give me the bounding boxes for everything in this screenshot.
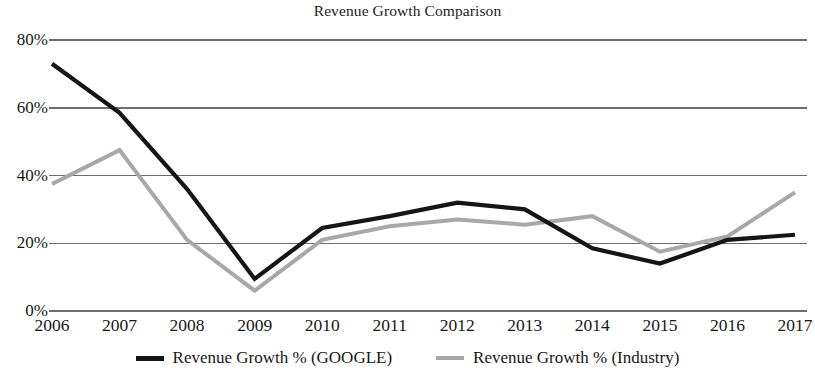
x-axis-tick-label: 2008 bbox=[154, 313, 220, 337]
x-axis-tick-label: 2007 bbox=[87, 313, 153, 337]
x-axis-tick-labels: 2006200720082009201020112012201320142015… bbox=[0, 313, 815, 339]
x-axis-tick-label: 2013 bbox=[492, 313, 558, 337]
y-axis-tick-label: 60% bbox=[2, 99, 48, 116]
legend-label: Revenue Growth % (Industry) bbox=[473, 348, 679, 368]
legend-line-icon bbox=[436, 356, 464, 360]
x-axis-tick-label: 2016 bbox=[694, 313, 760, 337]
y-axis-tick-label: 80% bbox=[2, 31, 48, 48]
series-line bbox=[52, 150, 795, 291]
plot-area bbox=[0, 0, 815, 340]
y-axis-tick-labels: 0%20%40%60%80% bbox=[0, 0, 48, 340]
y-axis-tick-label: 20% bbox=[2, 234, 48, 251]
x-axis-tick-label: 2015 bbox=[627, 313, 693, 337]
x-axis-tick-label: 2017 bbox=[762, 313, 815, 337]
x-axis-tick-label: 2012 bbox=[424, 313, 490, 337]
gridlines bbox=[49, 40, 807, 311]
x-axis-tick-label: 2011 bbox=[357, 313, 423, 337]
legend-entry: Revenue Growth % (GOOGLE) bbox=[136, 348, 393, 368]
plot-svg bbox=[0, 0, 815, 340]
legend-label: Revenue Growth % (GOOGLE) bbox=[173, 348, 393, 368]
legend-entry: Revenue Growth % (Industry) bbox=[436, 348, 679, 368]
y-axis-tick-label: 40% bbox=[2, 167, 48, 184]
x-axis-tick-label: 2006 bbox=[19, 313, 85, 337]
x-axis-tick-label: 2014 bbox=[559, 313, 625, 337]
series-lines bbox=[52, 64, 795, 291]
legend-line-icon bbox=[136, 356, 164, 361]
x-axis-tick-label: 2009 bbox=[222, 313, 288, 337]
revenue-growth-comparison-chart: Revenue Growth Comparison 0%20%40%60%80%… bbox=[0, 0, 815, 374]
chart-legend: Revenue Growth % (GOOGLE)Revenue Growth … bbox=[0, 343, 815, 373]
x-axis-tick-label: 2010 bbox=[289, 313, 355, 337]
